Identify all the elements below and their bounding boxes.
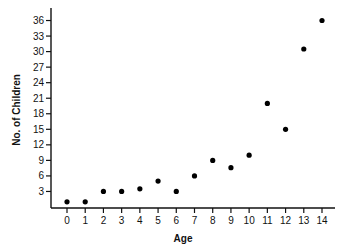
- y-tick-label: 15: [33, 124, 45, 135]
- y-tick-label: 30: [33, 46, 45, 57]
- y-tick-label: 33: [33, 31, 45, 42]
- x-tick-label: 13: [298, 215, 310, 226]
- x-tick-label: 9: [228, 215, 234, 226]
- data-point: [301, 46, 306, 51]
- x-tick-label: 8: [210, 215, 216, 226]
- data-point: [192, 173, 197, 178]
- y-tick-label: 12: [33, 139, 45, 150]
- y-tick-label: 18: [33, 108, 45, 119]
- x-tick-label: 10: [244, 215, 256, 226]
- data-point: [283, 127, 288, 132]
- scatter-chart: 369121518212427303336 012345678910111213…: [0, 0, 338, 251]
- data-point: [174, 189, 179, 194]
- x-tick-label: 7: [192, 215, 198, 226]
- y-tick-label: 9: [38, 155, 44, 166]
- data-point: [64, 199, 69, 204]
- y-tick-label: 27: [33, 62, 45, 73]
- x-tick-label: 3: [119, 215, 125, 226]
- data-point: [247, 153, 252, 158]
- data-point: [319, 18, 324, 23]
- x-tick-label: 5: [155, 215, 161, 226]
- x-tick-label: 4: [137, 215, 143, 226]
- y-tick-label: 24: [33, 77, 45, 88]
- y-tick-label: 21: [33, 93, 45, 104]
- data-point: [83, 199, 88, 204]
- data-point: [228, 165, 233, 170]
- data-point: [119, 189, 124, 194]
- data-point: [265, 101, 270, 106]
- x-tick-label: 2: [101, 215, 107, 226]
- data-point: [210, 158, 215, 163]
- y-tick-label: 3: [38, 186, 44, 197]
- x-tick-label: 11: [262, 215, 273, 226]
- x-tick-label: 1: [82, 215, 88, 226]
- x-tick-label: 14: [316, 215, 328, 226]
- x-axis-ticks: 01234567891011121314: [64, 208, 328, 226]
- y-tick-label: 36: [33, 15, 45, 26]
- x-axis-label: Age: [174, 233, 193, 244]
- data-points: [64, 18, 324, 205]
- y-axis-ticks: 369121518212427303336: [33, 15, 51, 197]
- y-tick-label: 6: [38, 170, 44, 181]
- x-tick-label: 6: [174, 215, 180, 226]
- data-point: [155, 179, 160, 184]
- y-axis-label: No. of Children: [11, 74, 22, 146]
- data-point: [101, 189, 106, 194]
- x-tick-label: 0: [64, 215, 70, 226]
- data-point: [137, 186, 142, 191]
- x-tick-label: 12: [280, 215, 292, 226]
